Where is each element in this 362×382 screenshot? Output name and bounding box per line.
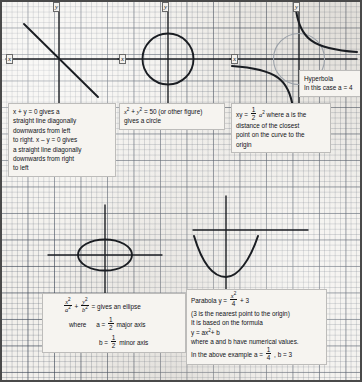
caption-line: distance of the closest [236,121,326,130]
plus-sign: + [75,303,79,310]
exp-2: 2 [262,110,265,115]
caption-ellipse: x2 a2 + y2 b2 = gives an ellipse where a… [42,293,186,353]
fraction-one-half: 1 2 [251,107,257,121]
caption-line: downwards from left [13,126,111,135]
axis-label-y-hyperbola: y [293,2,300,12]
caption-circle: x2 + y2 = 50 (or other figure) gives a c… [119,103,225,130]
caption-line: straight line diagonally [13,116,111,125]
a-definition-lead: a = [96,321,105,328]
exp-2: 2 [140,107,143,112]
denominator: 4 [230,300,237,307]
example-lead: In the above example a = [191,351,263,358]
b-definition-tail: minor axis [119,339,148,346]
caption-line: It is based on the formula [191,318,322,327]
caption-line: downwards from right [13,154,111,163]
axis-label-y-circle: y [162,2,169,12]
caption-line: where a = 1 2 major axis [69,317,181,331]
caption-line: x + y = 0 gives a [13,107,111,116]
caption-parabola: Parabola y = x2 4 + 3 (3 is the nearest … [186,289,327,365]
fraction-one-quarter: 1 4 [266,347,272,361]
fraction-one-half: 1 2 [111,335,117,349]
parabola-eq-lead: y = [218,297,227,304]
caption-line: origin [236,140,326,149]
graph-paper-sheet: y y y x x x x + y = 0 gives a straight l… [0,0,362,382]
circle-equation-tail: = 50 (or other figure) [144,108,202,115]
formula-tail: + b [211,329,220,336]
parabola-title: Parabola [191,297,217,304]
where-word: where [69,321,86,328]
caption-line: point on the curve to the [236,130,326,139]
exp-2: 2 [127,107,130,112]
caption-line: b = 1 2 minor axis [99,335,181,349]
a-definition-tail: major axis [116,321,145,328]
ellipse-equation-tail: = gives an ellipse [92,303,141,310]
denominator: b2 [81,306,89,313]
denominator: 2 [251,114,257,121]
parabola-eq-tail: + 3 [240,297,249,304]
caption-line: gives a circle [124,116,220,125]
hyperbola-equation-lead: xy = [236,111,248,118]
caption-line: y = ax2+ b [191,328,322,337]
caption-line: Parabola y = x2 4 + 3 [191,293,322,307]
caption-line: (3 is the nearest point to the origin) [191,309,322,318]
caption-line: x2 a2 + y2 b2 = gives an ellipse [63,299,181,313]
formula-lead: y = ax [191,329,208,336]
axis-label-x-circle: x [119,54,126,64]
hyperbola-a-value: In this case a = 4 [304,83,356,92]
caption-line: a straight line diagonally [13,145,111,154]
example-tail: , b = 3 [274,351,292,358]
numerator: 1 [251,107,257,114]
caption-line: x2 + y2 = 50 (or other figure) [124,107,220,116]
plus-sign: + [131,108,135,115]
axis-label-x-lines: x [6,54,13,64]
label-hyperbola: Hyperbola In this case a = 4 [299,70,361,97]
fraction-y2-b2: y2 b2 [81,299,89,313]
caption-line: to left [13,163,111,172]
axis-label-x-hyperbola: x [231,54,238,64]
denominator: a2 [64,306,72,313]
hyperbola-title: Hyperbola [304,74,356,83]
caption-line: where a and b have numerical values. [191,337,322,346]
hyperbola-equation-tail: where a is the [267,111,307,118]
numerator: x2 [230,293,237,300]
fraction-x2-4: x2 4 [230,293,237,307]
b-definition-lead: b = [99,339,108,346]
caption-hyperbola: xy = 1 2 a2 where a is the distance of t… [231,103,331,153]
fraction-one-half: 1 2 [108,317,114,331]
caption-line: xy = 1 2 a2 where a is the [236,107,326,121]
caption-line: In the above example a = 1 4 , b = 3 [191,347,322,361]
fraction-x2-a2: x2 a2 [64,299,72,313]
caption-line: to right. x – y = 0 gives [13,135,111,144]
axis-label-y-lines: y [53,2,60,12]
caption-straight-lines: x + y = 0 gives a straight line diagonal… [8,103,116,177]
